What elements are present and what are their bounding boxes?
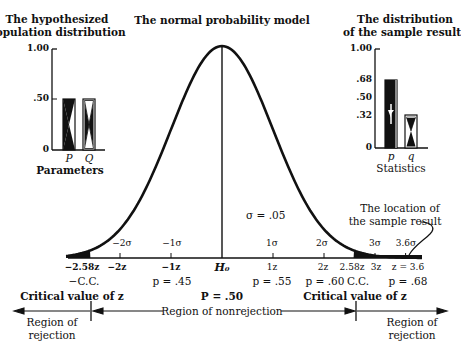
annotation-line1: The location of bbox=[360, 203, 439, 214]
sigma-label-2: 2σ bbox=[316, 239, 328, 248]
sigma-label-3-6: 3.6σ bbox=[396, 239, 416, 248]
population-title-line1: The hypothesized bbox=[6, 14, 109, 25]
sample-title-line2: of the sample result bbox=[343, 27, 461, 38]
normal-model-title: The normal probability model bbox=[134, 15, 310, 26]
center-p-label: P = .50 bbox=[201, 291, 243, 302]
sigma-label-neg1: −1σ bbox=[162, 239, 181, 248]
critical-value-left: Critical value of z bbox=[20, 291, 124, 302]
critical-value-right: Critical value of z bbox=[303, 291, 407, 302]
bar-label-Q: Q bbox=[85, 153, 94, 164]
right-ytick-032: .32 bbox=[356, 111, 372, 120]
population-bar-chart bbox=[52, 49, 105, 150]
left-rejection-line1: Region of bbox=[27, 317, 78, 328]
left-rejection-line2: rejection bbox=[28, 330, 75, 341]
right-ytick-050: .50 bbox=[356, 93, 372, 102]
z-label-neg258: −2.58z bbox=[65, 263, 100, 272]
z-label-neg2: −2z bbox=[108, 263, 127, 272]
sample-title-line1: The distribution bbox=[357, 14, 453, 25]
bar-label-p: p bbox=[388, 151, 395, 162]
z-label-3: 3z bbox=[371, 263, 381, 272]
sample-bar-chart bbox=[375, 49, 428, 148]
z-label-258: 2.58z bbox=[340, 263, 365, 272]
p-045-label: p = .45 bbox=[153, 276, 192, 287]
sigma-label-neg2: −2σ bbox=[112, 239, 131, 248]
z-label-neg1: −1z bbox=[162, 263, 181, 272]
right-rejection-line1: Region of bbox=[387, 317, 438, 328]
parameters-label: Parameters bbox=[36, 165, 104, 176]
right-rejection-line2: rejection bbox=[388, 330, 435, 341]
cc-label: C.C. bbox=[347, 276, 369, 287]
p-068-label: p = .68 bbox=[389, 276, 428, 287]
left-ytick-0: 0 bbox=[43, 145, 49, 154]
bar-label-q: q bbox=[408, 151, 415, 162]
right-ytick-068: .68 bbox=[356, 75, 372, 84]
right-ytick-1: 1.00 bbox=[350, 44, 372, 53]
left-ytick-050: .50 bbox=[33, 94, 49, 103]
right-ytick-0: 0 bbox=[366, 143, 372, 152]
annotation-line2: the sample result bbox=[349, 216, 442, 227]
statistics-label: Statistics bbox=[376, 163, 426, 174]
z-label-3-6: z = 3.6 bbox=[392, 263, 424, 272]
z-label-1: 1z bbox=[267, 263, 277, 272]
nonrejection-label: Region of nonrejection bbox=[161, 306, 282, 317]
sigma-label-3: 3σ bbox=[369, 239, 381, 248]
population-title-line2: population distribution bbox=[0, 27, 126, 38]
left-ytick-1: 1.00 bbox=[27, 44, 49, 53]
p-055-label: p = .55 bbox=[253, 276, 292, 287]
z-label-2: 2z bbox=[318, 263, 328, 272]
bar-label-P: P bbox=[65, 153, 72, 164]
sigma-label-1: 1σ bbox=[266, 239, 278, 248]
sigma-note: σ = .05 bbox=[246, 210, 285, 221]
h0-label: H₀ bbox=[214, 262, 229, 273]
p-060-label: p = .60 bbox=[306, 276, 345, 287]
neg-cc-label: −C.C. bbox=[69, 276, 100, 287]
